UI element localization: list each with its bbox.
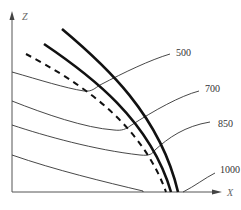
isobar-700 bbox=[12, 91, 199, 130]
z-axis-arrow-icon bbox=[10, 11, 15, 20]
isobars bbox=[12, 54, 215, 192]
inner-thick-curve bbox=[44, 44, 171, 192]
isobar-1000 bbox=[12, 155, 215, 192]
label-700: 700 bbox=[205, 83, 220, 94]
label-500: 500 bbox=[176, 47, 191, 58]
dashed-curve bbox=[26, 54, 166, 192]
isobar-850 bbox=[12, 122, 210, 155]
x-axis: X bbox=[12, 187, 234, 198]
label-850: 850 bbox=[218, 118, 233, 129]
label-1000: 1000 bbox=[220, 164, 240, 175]
isobar-labels: 500 700 850 1000 bbox=[176, 47, 240, 175]
x-axis-arrow-icon bbox=[212, 190, 222, 195]
x-axis-label: X bbox=[226, 187, 234, 198]
z-axis-label: Z bbox=[22, 11, 28, 22]
pressure-cross-section-diagram: Z X 500 700 850 1000 bbox=[0, 0, 241, 210]
